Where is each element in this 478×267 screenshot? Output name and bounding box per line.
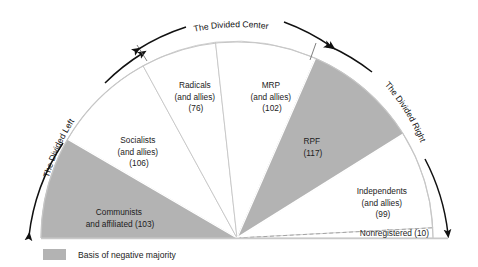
parliament-semicircle-figure: Communists and affiliated (103) Socialis… bbox=[0, 0, 478, 267]
divided-center-label: The Divided Center bbox=[193, 19, 270, 34]
label-nonregistered: Nonregistered (10) bbox=[360, 228, 429, 238]
legend-label-negative-majority: Basis of negative majority bbox=[78, 250, 177, 260]
label-rpf: RPF (117) bbox=[304, 136, 323, 158]
figure-svg: Communists and affiliated (103) Socialis… bbox=[0, 0, 478, 267]
legend-swatch-negative-majority bbox=[43, 249, 66, 260]
label-communists: Communists and affiliated (103) bbox=[86, 207, 155, 229]
divided-center-arc-right bbox=[284, 22, 332, 47]
legend: Basis of negative majority bbox=[43, 249, 177, 260]
divided-center-arc-left bbox=[137, 27, 186, 50]
